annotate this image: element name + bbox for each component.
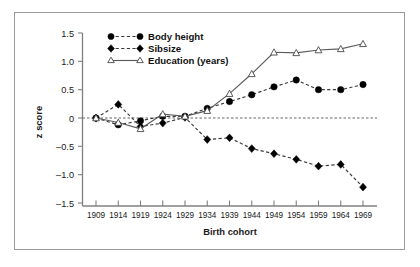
- data-point-circle: [338, 86, 344, 92]
- x-axis-tick-labels: 1909191419191924192919341939194419491954…: [87, 211, 373, 220]
- data-point-diamond: [360, 183, 367, 191]
- data-point-circle: [360, 81, 366, 87]
- data-point-circle: [293, 77, 299, 83]
- series-line: [96, 104, 363, 187]
- data-point-diamond: [271, 150, 278, 158]
- data-point-diamond: [248, 145, 255, 153]
- data-point-diamond: [315, 162, 322, 170]
- y-tick-label-3: 0.5: [61, 85, 74, 95]
- x-tick-label-1959: 1959: [309, 211, 328, 220]
- data-point-circle: [315, 86, 321, 92]
- series-line: [96, 44, 363, 129]
- data-point-circle: [271, 84, 277, 90]
- x-tick-label-1929: 1929: [176, 211, 195, 220]
- y-tick-label-5: –0.5: [56, 142, 74, 152]
- y-tick-label-4: 0: [69, 114, 74, 124]
- y-axis-ticks: [78, 33, 83, 203]
- data-point-circle: [249, 92, 255, 98]
- x-tick-label-1939: 1939: [220, 211, 239, 220]
- x-tick-label-1914: 1914: [109, 211, 128, 220]
- y-tick-label-1: 1.5: [61, 29, 74, 39]
- y-axis-title: z score: [33, 106, 44, 138]
- legend-marker-triangle: [108, 57, 115, 62]
- y-tick-label-7: –1.5: [56, 199, 74, 209]
- legend-item-body-height[interactable]: Body height: [108, 31, 204, 42]
- legend-marker-triangle: [137, 57, 144, 62]
- legend-marker-diamond: [108, 45, 115, 53]
- legend-marker-circle: [108, 33, 114, 39]
- legend-label-sibsize: Sibsize: [148, 43, 181, 54]
- data-point-triangle: [360, 40, 367, 46]
- x-tick-label-1944: 1944: [243, 211, 262, 220]
- data-point-diamond: [226, 134, 233, 142]
- x-tick-label-1954: 1954: [287, 211, 306, 220]
- x-tick-label-1949: 1949: [265, 211, 284, 220]
- legend-marker-diamond: [137, 45, 144, 53]
- series-body-height: [93, 77, 366, 128]
- x-tick-label-1919: 1919: [131, 211, 150, 220]
- legend-label-education: Education (years): [148, 55, 229, 66]
- series-layer: [93, 40, 367, 191]
- x-tick-label-1924: 1924: [154, 211, 173, 220]
- x-tick-label-1909: 1909: [87, 211, 106, 220]
- legend-item-sibsize[interactable]: Sibsize: [108, 43, 181, 54]
- x-tick-label-1964: 1964: [332, 211, 351, 220]
- chart-canvas: 1.5 1.0 0.5 0 –0.5 –1.0 –1.5 z score 190…: [0, 0, 420, 267]
- legend-label-body-height: Body height: [148, 31, 204, 42]
- series-sibsize: [93, 101, 367, 192]
- x-tick-label-1934: 1934: [198, 211, 217, 220]
- data-point-diamond: [159, 119, 166, 127]
- x-axis-title: Birth cohort: [203, 226, 257, 237]
- legend-marker-circle: [137, 33, 143, 39]
- x-axis-ticks: [96, 201, 363, 207]
- y-tick-label-6: –1.0: [56, 170, 74, 180]
- legend-item-education[interactable]: Education (years): [108, 55, 229, 66]
- data-point-circle: [226, 98, 232, 104]
- chart-legend: Body height Sibsize Education (years): [108, 31, 229, 66]
- x-tick-label-1969: 1969: [354, 211, 373, 220]
- y-tick-label-2: 1.0: [61, 57, 74, 67]
- data-point-diamond: [293, 155, 300, 163]
